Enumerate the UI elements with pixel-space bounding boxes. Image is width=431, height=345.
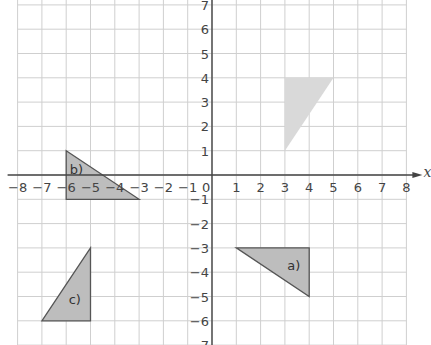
x-tick-label: 3 bbox=[281, 180, 289, 195]
y-tick-label: −2 bbox=[190, 217, 209, 232]
y-tick-label: 1 bbox=[201, 144, 209, 159]
y-tick-label: 7 bbox=[201, 0, 209, 13]
y-tick-label: 2 bbox=[201, 119, 209, 134]
x-axis-label: x bbox=[423, 164, 431, 180]
x-tick-label: −7 bbox=[32, 180, 51, 195]
y-tick-label: −7 bbox=[190, 338, 209, 345]
y-tick-label: 3 bbox=[201, 95, 209, 110]
x-tick-label: −4 bbox=[105, 180, 124, 195]
x-tick-label: 5 bbox=[329, 180, 337, 195]
y-tick-label: −6 bbox=[190, 314, 209, 329]
y-tick-label: −3 bbox=[190, 241, 209, 256]
x-tick-label: 4 bbox=[305, 180, 313, 195]
coordinate-grid: a)b)c)x−8−7−6−5−4−3−2−10123456787654321−… bbox=[0, 0, 431, 345]
x-tick-label: 1 bbox=[232, 180, 240, 195]
x-tick-label: −6 bbox=[57, 180, 76, 195]
x-tick-label: 6 bbox=[354, 180, 362, 195]
x-tick-label: 7 bbox=[378, 180, 386, 195]
x-axis-arrow-icon bbox=[412, 172, 422, 178]
x-tick-label: −5 bbox=[81, 180, 100, 195]
y-tick-label: −4 bbox=[190, 265, 209, 280]
y-tick-label: −1 bbox=[190, 192, 209, 207]
x-tick-label: −3 bbox=[130, 180, 149, 195]
shape-label: a) bbox=[287, 258, 300, 273]
x-tick-label: −2 bbox=[154, 180, 173, 195]
y-tick-label: 4 bbox=[201, 71, 209, 86]
x-tick-label: 2 bbox=[256, 180, 264, 195]
y-tick-label: −5 bbox=[190, 290, 209, 305]
x-tick-label: 8 bbox=[402, 180, 410, 195]
y-tick-label: 5 bbox=[201, 47, 209, 62]
y-tick-label: 6 bbox=[201, 22, 209, 37]
x-tick-label: −8 bbox=[8, 180, 27, 195]
shape-label: c) bbox=[69, 292, 81, 307]
